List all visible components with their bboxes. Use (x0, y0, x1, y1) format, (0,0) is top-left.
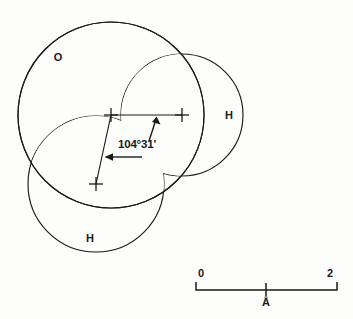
scale-label-right: 2 (327, 267, 333, 279)
scale-label-left: 0 (198, 267, 204, 279)
atom-label-oxygen: O (54, 51, 63, 63)
scale-unit-label-angstrom: Å (262, 296, 270, 308)
oxygen-overlap-mask (18, 22, 243, 252)
bond-angle-label: 104°31' (118, 138, 156, 150)
water-molecule-figure: O H H 104°31' (0, 0, 353, 319)
atom-label-hydrogen-lower: H (86, 232, 94, 244)
molecule-diagram-canvas: O H H 104°31' (0, 0, 353, 319)
atom-label-hydrogen-right: H (225, 109, 233, 121)
scale-bar: 0 2 Å (196, 267, 337, 308)
